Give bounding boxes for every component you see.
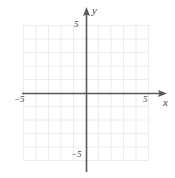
- y-axis-tick-label-negative: −5: [71, 150, 82, 159]
- x-axis-tick-label-negative: −5: [14, 95, 25, 104]
- coordinate-plane-canvas: [0, 0, 175, 178]
- x-axis-tick-label-positive: 5: [143, 95, 148, 104]
- coordinate-plane-figure: x y 5 −5 5 −5: [0, 0, 175, 178]
- y-axis-tick-label-positive: 5: [74, 20, 79, 29]
- x-axis-label: x: [163, 97, 168, 108]
- y-axis-label: y: [92, 5, 97, 16]
